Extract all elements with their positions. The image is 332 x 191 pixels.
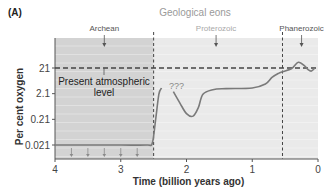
unknown-label: ??? bbox=[169, 81, 184, 91]
eon-label-archean: Archean bbox=[89, 24, 119, 33]
present-level-label: level bbox=[94, 87, 115, 98]
y-axis-label: Per cent oxygen bbox=[14, 68, 25, 145]
chart-title: Geological eons bbox=[159, 7, 231, 18]
x-tick-label: 3 bbox=[118, 164, 124, 175]
y-tick-label: 21 bbox=[39, 63, 51, 74]
eon-label-proterozoic: Proterozoic bbox=[196, 24, 236, 33]
post-archean-region bbox=[154, 38, 318, 159]
x-axis-label: Time (billion years ago) bbox=[133, 176, 245, 187]
x-tick-label: 1 bbox=[249, 164, 255, 175]
eon-label-phanerozoic: Phanerozoic bbox=[279, 24, 323, 33]
y-tick-label: 0.21 bbox=[31, 114, 51, 125]
present-level-label: Present atmospheric bbox=[58, 76, 150, 87]
panel-label: (A) bbox=[8, 7, 22, 18]
x-tick-label: 2 bbox=[184, 164, 190, 175]
y-tick-label: 0.021 bbox=[25, 140, 50, 151]
x-tick-label: 4 bbox=[52, 164, 58, 175]
y-tick-label: 2.1 bbox=[36, 88, 50, 99]
x-tick-label: 0 bbox=[315, 164, 321, 175]
oxygen-history-chart: 43210212.10.210.021Time (billion years a… bbox=[0, 0, 332, 191]
archean-region bbox=[55, 38, 154, 159]
